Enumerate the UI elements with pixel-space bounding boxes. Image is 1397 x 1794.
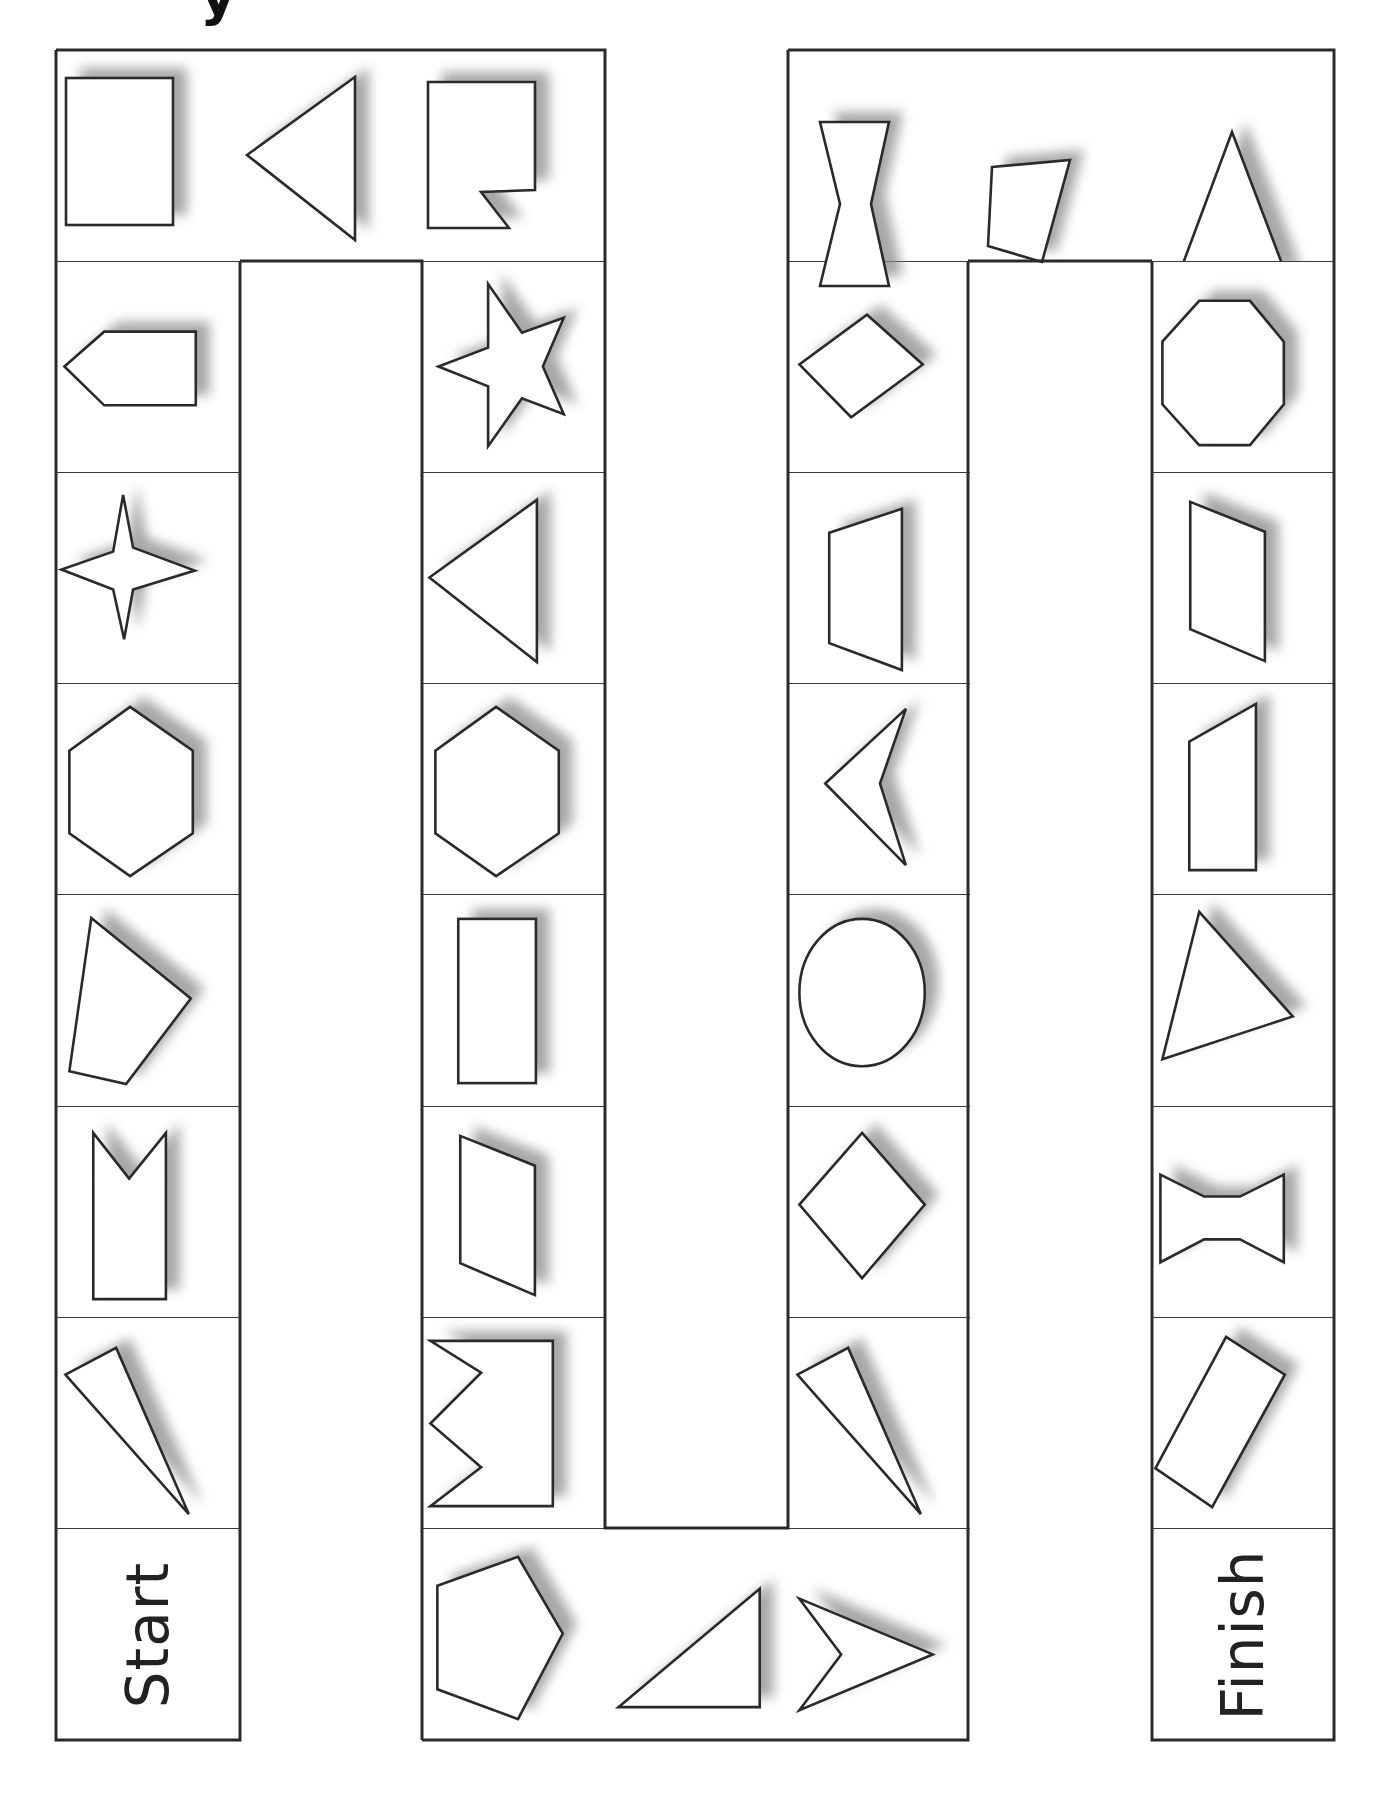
circle-icon [788, 895, 970, 1106]
thin-triangle-icon [56, 1318, 240, 1528]
board-square-octagon [1152, 261, 1334, 472]
rectangle-icon [422, 895, 605, 1106]
thin-triangle-icon [788, 1318, 970, 1528]
board-square-square [56, 50, 240, 261]
board-square-arrowhead-right [788, 1528, 970, 1740]
board-square-right-triangle [605, 1528, 788, 1740]
rhombus-icon [788, 262, 970, 472]
parallelogram-icon [1152, 473, 1334, 683]
square-icon [56, 50, 240, 261]
board-square-triangle-pointing-left [240, 50, 422, 261]
board-square-hexagon [422, 683, 605, 894]
board-square-rectangle [422, 894, 605, 1106]
irregular-quadrilateral-icon [56, 895, 240, 1106]
board-square-rotated-rectangle [1152, 1317, 1334, 1528]
arrowhead-left-icon [788, 684, 970, 894]
bowtie-icon [1152, 1107, 1334, 1317]
board-square-parallelogram [422, 1106, 605, 1317]
scalene-triangle-icon [1152, 895, 1334, 1106]
board-square-irregular-quadrilateral [56, 894, 240, 1106]
hexagon-icon [56, 684, 240, 894]
board-square-four-point-star [56, 472, 240, 683]
page-title-fragment: y [200, 0, 237, 27]
board-square-notched-rectangle [56, 1106, 240, 1317]
notched-square-icon [422, 50, 605, 261]
board-square-zigzag-square [422, 1317, 605, 1528]
board-square-hexagon [56, 683, 240, 894]
pentagon-icon [422, 1529, 605, 1740]
pentagon-arrow-left-icon [56, 262, 240, 472]
hexagon-icon [422, 684, 605, 894]
board-square-five-point-star [422, 261, 605, 472]
board-square-scalene-triangle [1152, 894, 1334, 1106]
octagon-icon [1152, 262, 1334, 472]
right-triangle-icon [605, 1529, 788, 1740]
board-square-finish: Finish [1152, 1528, 1334, 1740]
triangle-pointing-left-icon [240, 50, 422, 261]
trapezoid-icon [788, 473, 970, 683]
square-diamond-icon [788, 1107, 970, 1317]
board-square-thin-triangle [56, 1317, 240, 1528]
parallelogram-icon [422, 1107, 605, 1317]
isosceles-triangle-icon [1152, 50, 1334, 261]
board-square-thin-triangle [788, 1317, 970, 1528]
arrowhead-right-icon [788, 1529, 970, 1740]
notched-rectangle-icon [56, 1107, 240, 1317]
board-square-trapezoid [788, 472, 970, 683]
board-square-rhombus [788, 261, 970, 472]
finish-label: Finish [1209, 1549, 1277, 1720]
board-square-parallelogram [1152, 472, 1334, 683]
board-square-circle [788, 894, 970, 1106]
board-square-hourglass [788, 50, 970, 261]
triangle-pointing-left-icon [422, 473, 605, 683]
board-square-triangle-pointing-left [422, 472, 605, 683]
hourglass-icon [788, 50, 970, 261]
zigzag-square-icon [422, 1318, 605, 1528]
rotated-rectangle-icon [1152, 1318, 1334, 1528]
five-point-star-icon [422, 262, 605, 472]
right-trapezoid-icon [1152, 684, 1334, 894]
board-square-arrowhead-left [788, 683, 970, 894]
board-square-right-trapezoid [1152, 683, 1334, 894]
quadrilateral-icon [970, 50, 1152, 261]
start-label: Start [114, 1561, 182, 1708]
board-square-bowtie [1152, 1106, 1334, 1317]
board-square-pentagon [422, 1528, 605, 1740]
board-square-notched-square [422, 50, 605, 261]
board-square-quadrilateral [970, 50, 1152, 261]
board-square-square-diamond [788, 1106, 970, 1317]
four-point-star-icon [56, 473, 240, 683]
board-square-isosceles-triangle [1152, 50, 1334, 261]
board-square-start: Start [56, 1528, 240, 1740]
board-square-pentagon-arrow-left [56, 261, 240, 472]
